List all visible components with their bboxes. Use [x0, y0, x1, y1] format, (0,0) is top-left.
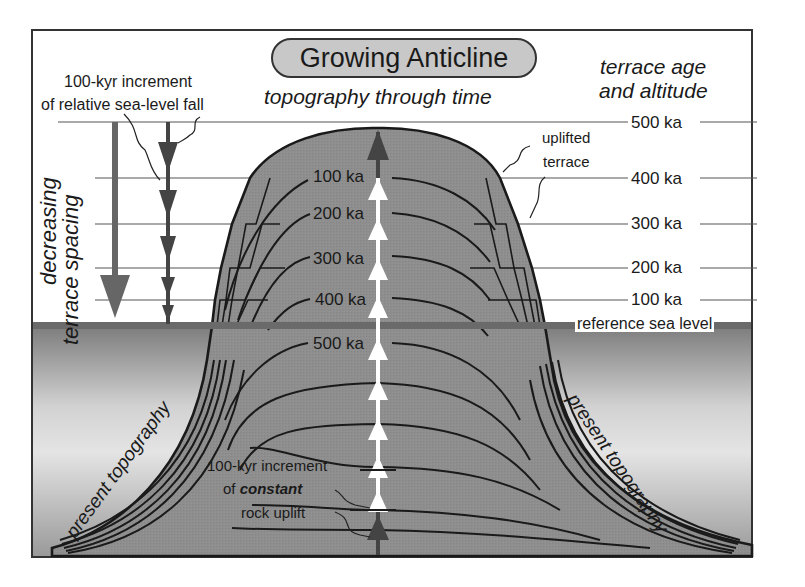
topography-age-300: 300 ka [313, 250, 364, 267]
reference-sea-level-label: reference sea level [575, 316, 714, 332]
sea-level-fall-label-line2: of relative sea-level fall [41, 97, 204, 113]
uplifted-terrace-label-line2: terrace [543, 154, 590, 169]
title: Growing Anticline [300, 43, 509, 74]
terrace-age-header-line1: terrace age [600, 56, 706, 77]
topography-age-100: 100 ka [313, 168, 364, 185]
terrace-age-400: 400 ka [631, 170, 682, 187]
topography-age-400: 400 ka [315, 291, 366, 308]
terrace-age-300: 300 ka [631, 215, 682, 232]
uplift-label-line3: rock uplift [241, 505, 305, 520]
terrace-age-500: 500 ka [631, 114, 682, 131]
terrace-age-header-line2: and altitude [599, 80, 708, 101]
topography-age-200: 200 ka [313, 205, 364, 222]
topography-age-500: 500 ka [313, 335, 364, 352]
uplift-label-line1: 100-kyr increment [207, 458, 327, 473]
uplift-label-line2: of constant [223, 481, 302, 496]
uplift-label-of: of [223, 480, 240, 497]
sea-level-fall-label-line1: 100-kyr increment [64, 74, 192, 90]
vertical-label-line1-rot: decreasing [38, 177, 60, 285]
terrace-age-100: 100 ka [631, 291, 682, 308]
vertical-label-line2: terrace spacing [60, 195, 82, 345]
title-badge: Growing Anticline [271, 38, 537, 78]
uplifted-terrace-label-line1: uplifted [542, 130, 590, 145]
subtitle: topography through time [264, 86, 492, 107]
terrace-age-200: 200 ka [631, 259, 682, 276]
uplift-label-constant: constant [240, 480, 303, 497]
